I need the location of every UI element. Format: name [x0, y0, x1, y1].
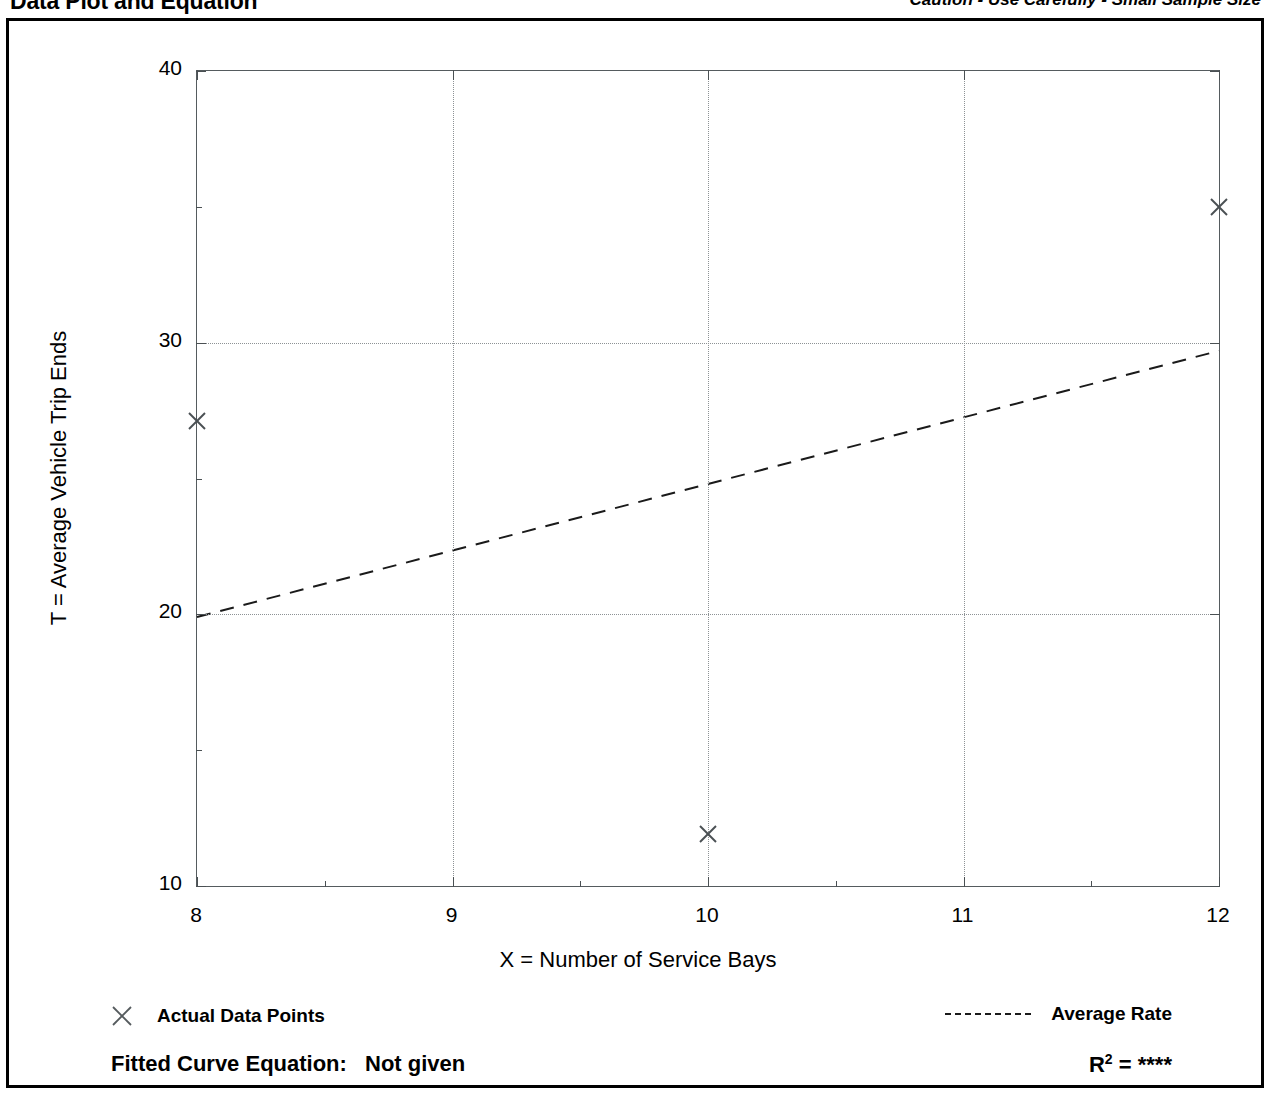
y-axis-tick-label: 40 — [112, 56, 182, 80]
x-axis-tick-label: 11 — [933, 903, 993, 927]
legend-label-average-rate: Average Rate — [1051, 1003, 1172, 1025]
x-axis-tick-label: 8 — [166, 903, 226, 927]
gridline-vertical — [964, 71, 965, 886]
y-axis-tick — [1210, 343, 1220, 344]
x-axis-tick — [708, 70, 709, 80]
gridline-horizontal — [197, 614, 1219, 615]
legend-label-actual-data-points: Actual Data Points — [157, 1005, 325, 1027]
equation-label: Fitted Curve Equation: — [111, 1051, 347, 1076]
data-point-marker — [697, 823, 719, 845]
r-squared-exponent: 2 — [1105, 1051, 1113, 1067]
y-axis-tick — [1210, 614, 1220, 615]
gridline-vertical — [453, 71, 454, 886]
y-axis-tick-label: 10 — [112, 871, 182, 895]
y-axis-tick — [196, 614, 206, 615]
dashed-line-icon — [945, 1013, 1031, 1015]
y-axis-title: T = Average Vehicle Trip Ends — [46, 330, 72, 625]
r-squared: R2 = **** — [1089, 1051, 1172, 1078]
fitted-curve-equation: Fitted Curve Equation: Not given — [111, 1051, 465, 1077]
y-axis-minor-tick — [196, 479, 202, 480]
legend-item-actual-data-points: Actual Data Points — [109, 1003, 325, 1029]
x-axis-minor-tick — [580, 881, 581, 887]
data-point-marker — [186, 410, 208, 432]
x-axis-minor-tick — [1091, 881, 1092, 887]
x-axis-tick-label: 9 — [422, 903, 482, 927]
y-axis-minor-tick — [196, 207, 202, 208]
x-axis-tick — [453, 877, 454, 887]
y-axis-tick-label: 20 — [112, 599, 182, 623]
caution-note: Caution - Use Carefully - Small Sample S… — [910, 0, 1261, 10]
chart-legend: Actual Data Points Average Rate — [9, 1003, 1267, 1033]
y-axis-tick — [196, 343, 206, 344]
y-axis-tick-label: 30 — [112, 328, 182, 352]
chart-panel: T = Average Vehicle Trip Ends X = Number… — [6, 18, 1264, 1088]
x-axis-tick — [453, 70, 454, 80]
y-axis-title-wrap: T = Average Vehicle Trip Ends — [39, 70, 79, 885]
r-squared-value: **** — [1138, 1052, 1172, 1077]
legend-item-average-rate: Average Rate — [945, 1003, 1172, 1025]
page-header: Data Plot and Equation Caution - Use Car… — [0, 0, 1273, 16]
plot-area — [196, 70, 1220, 887]
gridline-horizontal — [197, 343, 1219, 344]
x-axis-tick — [964, 70, 965, 80]
equation-row: Fitted Curve Equation: Not given R2 = **… — [9, 1051, 1267, 1085]
y-axis-tick — [196, 71, 206, 72]
x-axis-tick-label: 10 — [677, 903, 737, 927]
equation-value: Not given — [365, 1051, 465, 1076]
r-squared-label: R — [1089, 1052, 1105, 1077]
y-axis-tick — [196, 886, 206, 887]
gridline-vertical — [708, 71, 709, 886]
x-axis-tick-label: 12 — [1188, 903, 1248, 927]
x-axis-tick — [708, 877, 709, 887]
x-axis-tick — [964, 877, 965, 887]
x-axis-minor-tick — [325, 881, 326, 887]
data-point-marker — [1208, 196, 1230, 218]
y-axis-minor-tick — [196, 750, 202, 751]
y-axis-tick — [1210, 886, 1220, 887]
x-axis-title: X = Number of Service Bays — [9, 947, 1267, 973]
y-axis-tick — [1210, 71, 1220, 72]
x-axis-minor-tick — [836, 881, 837, 887]
page-title: Data Plot and Equation — [10, 0, 257, 15]
plot-inner — [197, 71, 1219, 886]
x-marker-icon — [109, 1003, 135, 1029]
r-squared-equals: = — [1119, 1052, 1132, 1077]
